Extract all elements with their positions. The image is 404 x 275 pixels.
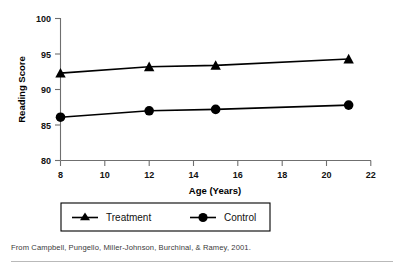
control-point-marker	[144, 106, 154, 116]
y-tick-label-85: 85	[41, 121, 51, 131]
y-tick-label-90: 90	[41, 85, 51, 95]
source-citation: From Campbell, Pungello, Miller-Johnson,…	[11, 243, 391, 252]
x-axis-title: Age (Years)	[189, 185, 241, 196]
y-axis-title: Reading Score	[16, 56, 27, 123]
legend-label-treatment: Treatment	[106, 212, 151, 223]
x-tick-label-10: 10	[100, 170, 110, 180]
circle-marker-icon	[198, 213, 207, 222]
x-tick-label-16: 16	[233, 170, 243, 180]
series-control	[56, 100, 354, 122]
legend-label-control: Control	[224, 212, 256, 223]
control-point-marker	[211, 105, 221, 115]
y-tick-label-95: 95	[41, 50, 51, 60]
series-treatment	[55, 54, 354, 78]
control-point-marker	[344, 100, 354, 110]
control-point-marker	[56, 112, 66, 122]
x-tick-label-12: 12	[144, 170, 154, 180]
x-axis-ticks	[61, 161, 371, 167]
y-axis-ticks	[55, 19, 61, 161]
y-tick-label-100: 100	[36, 14, 51, 24]
x-tick-label-14: 14	[188, 170, 198, 180]
line-chart: 100 95 90 85 80 8 10 12 14 16 18 20 22 R…	[0, 0, 404, 240]
bottom-divider	[11, 261, 393, 262]
x-tick-label-18: 18	[277, 170, 287, 180]
y-tick-label-80: 80	[41, 156, 51, 166]
x-tick-label-22: 22	[366, 170, 376, 180]
reading-score-figure: 100 95 90 85 80 8 10 12 14 16 18 20 22 R…	[0, 0, 404, 275]
x-tick-label-20: 20	[321, 170, 331, 180]
chart-legend: Treatment Control	[61, 203, 270, 231]
triangle-marker-icon	[80, 213, 90, 221]
x-tick-label-8: 8	[58, 170, 63, 180]
